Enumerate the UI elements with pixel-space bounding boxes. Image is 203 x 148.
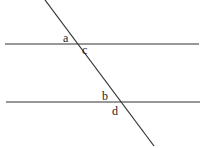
angle-label-b: b — [102, 89, 108, 103]
angle-label-c: c — [82, 43, 87, 57]
diagram-canvas: a c b d — [0, 0, 203, 148]
angle-label-a: a — [63, 31, 69, 45]
diagram-svg: a c b d — [0, 0, 203, 148]
transversal-line — [45, 0, 154, 146]
angle-label-d: d — [112, 104, 118, 118]
